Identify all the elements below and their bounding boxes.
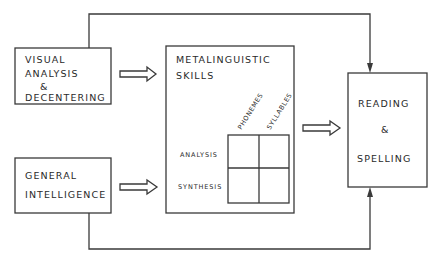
bottom-connector-line [89, 194, 370, 249]
skills-title-line2: SKILLS [176, 68, 214, 83]
visual-label-line2: ANALYSIS [25, 66, 79, 81]
general-label-line2: INTELLIGENCE [25, 187, 106, 202]
reading-label-line3: SPELLING [357, 151, 411, 166]
row-label-analysis: ANALYSIS [180, 148, 218, 163]
arrowhead-down-icon [367, 63, 373, 73]
visual-label-line4: DECENTERING [25, 90, 106, 105]
reading-label-line2: & [381, 122, 390, 137]
general-label-line1: GENERAL [25, 168, 77, 183]
arrowhead-up-icon [367, 187, 373, 197]
skills-grid [228, 135, 289, 203]
skills-title-line1: METALINGUISTIC [176, 52, 271, 67]
arrow-visual-to-skills-icon [120, 67, 156, 81]
arrow-general-to-skills-icon [120, 180, 157, 194]
general-intelligence-box [15, 158, 111, 213]
reading-label-line1: READING [358, 96, 409, 111]
diagram-canvas [0, 0, 439, 261]
row-label-synthesis: SYNTHESIS [178, 180, 222, 195]
visual-label-line1: VISUAL [25, 52, 66, 67]
arrow-skills-to-reading-icon [303, 121, 340, 135]
